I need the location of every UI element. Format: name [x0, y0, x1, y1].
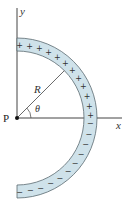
- positive-charge-icon: +: [26, 42, 33, 51]
- point-p-label: P: [3, 112, 9, 124]
- negative-charge-icon: −: [85, 130, 92, 139]
- positive-charge-icon: +: [16, 41, 23, 50]
- point-p-dot: [15, 116, 19, 120]
- angle-label: θ: [35, 103, 40, 114]
- negative-charge-icon: −: [65, 167, 72, 176]
- positive-charge-icon: +: [54, 53, 61, 62]
- positive-charge-icon: +: [75, 74, 82, 83]
- negative-charge-icon: −: [56, 174, 63, 183]
- charged-semicircle-diagram: ++++++++++++−−−−−−−−−−− y x R θ P: [0, 0, 129, 206]
- positive-charge-icon: +: [80, 82, 87, 91]
- negative-charge-icon: −: [87, 119, 94, 128]
- negative-charge-icon: −: [27, 186, 34, 195]
- positive-charge-icon: +: [84, 92, 91, 101]
- negative-charge-icon: −: [82, 140, 89, 149]
- radius-label: R: [33, 83, 41, 95]
- negative-charge-icon: −: [16, 188, 23, 197]
- y-axis-label: y: [19, 5, 25, 17]
- positive-charge-icon: +: [45, 48, 52, 57]
- positive-charge-icon: +: [36, 44, 43, 53]
- negative-charge-icon: −: [72, 159, 79, 168]
- angle-arc: [27, 108, 31, 118]
- x-axis-label: x: [115, 119, 121, 131]
- negative-charge-icon: −: [37, 184, 44, 193]
- negative-charge-icon: −: [78, 150, 85, 159]
- positive-charge-icon: +: [86, 102, 93, 111]
- negative-charge-icon: −: [47, 179, 54, 188]
- positive-charge-icon: +: [62, 59, 69, 68]
